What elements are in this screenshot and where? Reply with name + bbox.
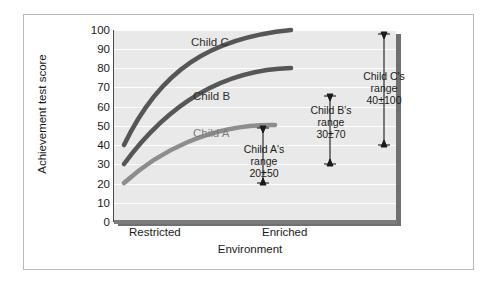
y-axis-title: Achievement test score	[36, 34, 48, 194]
x-axis-title: Environment	[160, 243, 340, 255]
y-tick-60: 60	[76, 102, 110, 113]
y-axis-ticks: 100 90 80 70 60 50 40 30 20 10 0	[70, 0, 110, 284]
x-tick-enriched: Enriched	[262, 226, 307, 238]
curve-label-child-b: Child B	[193, 90, 230, 102]
annotation-a-line1: Child A's	[238, 143, 290, 155]
annotation-b-line3: 30±70	[303, 128, 359, 140]
y-tick-80: 80	[76, 63, 110, 74]
y-tick-0: 0	[76, 217, 110, 228]
y-tick-40: 40	[76, 140, 110, 151]
x-tick-restricted: Restricted	[129, 226, 181, 238]
figure-container: 100 90 80 70 60 50 40 30 20 10 0 Achieve…	[0, 0, 497, 284]
annotation-b-line2: range	[303, 116, 359, 128]
y-tick-20: 20	[76, 179, 110, 190]
annotation-c-line3: 40±100	[355, 94, 413, 106]
annotation-child-c-range: Child C's range 40±100	[355, 70, 413, 106]
annotation-b-line1: Child B's	[303, 104, 359, 116]
y-tick-100: 100	[76, 25, 110, 36]
annotation-a-line3: 20±50	[238, 167, 290, 179]
annotation-a-line2: range	[238, 155, 290, 167]
y-tick-90: 90	[76, 44, 110, 55]
annotation-c-line2: range	[355, 82, 413, 94]
annotation-c-line1: Child C's	[355, 70, 413, 82]
annotation-child-b-range: Child B's range 30±70	[303, 104, 359, 140]
y-tick-70: 70	[76, 82, 110, 93]
annotation-child-a-range: Child A's range 20±50	[238, 143, 290, 179]
curve-label-child-c: Child C	[191, 36, 229, 48]
y-tick-30: 30	[76, 159, 110, 170]
curve-label-child-a: Child A	[193, 127, 229, 139]
y-tick-50: 50	[76, 121, 110, 132]
y-tick-10: 10	[76, 198, 110, 209]
